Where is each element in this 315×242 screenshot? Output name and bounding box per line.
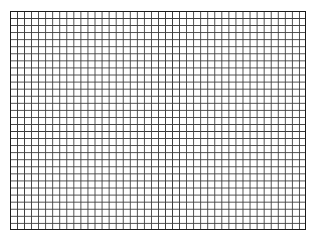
grid-paper [10,11,306,230]
